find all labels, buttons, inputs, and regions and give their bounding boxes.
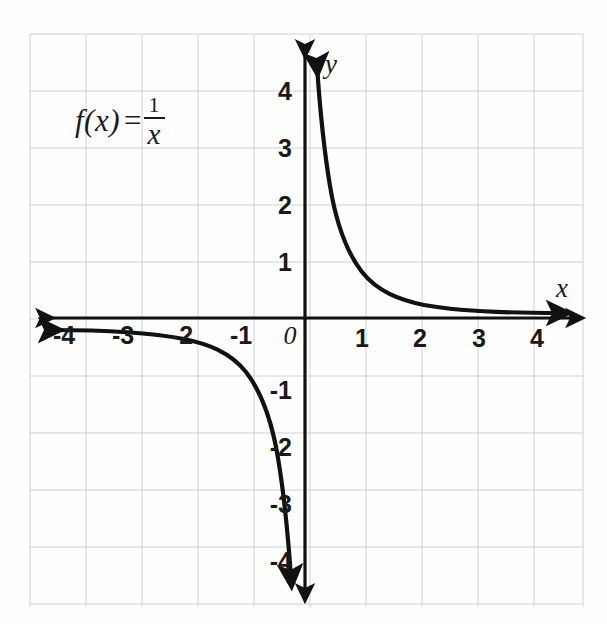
x-tick-label: 4 bbox=[530, 324, 544, 352]
plot-canvas: -4 -3 -2 -1 0 1 2 3 4 4 3 2 1 -1 -2 -3 -… bbox=[0, 0, 607, 624]
formula-denominator: x bbox=[145, 119, 164, 149]
x-tick-label: 2 bbox=[413, 324, 427, 352]
x-tick-label: -4 bbox=[53, 321, 75, 349]
formula-equals-sign: = bbox=[124, 103, 141, 138]
y-tick-label: -3 bbox=[270, 490, 292, 518]
x-tick-label: 1 bbox=[355, 324, 369, 352]
formula-numerator: 1 bbox=[146, 94, 163, 117]
y-axis-label: y bbox=[322, 49, 337, 79]
x-tick-label: -1 bbox=[230, 321, 252, 349]
y-tick-label: -1 bbox=[270, 376, 292, 404]
y-tick-label: 2 bbox=[278, 191, 292, 219]
function-formula: f(x)=1x bbox=[75, 96, 165, 151]
y-tick-label: 4 bbox=[278, 77, 292, 105]
x-tick-labels: -4 -3 -2 -1 0 1 2 3 4 bbox=[53, 321, 544, 352]
curve-branch-positive bbox=[317, 66, 560, 313]
y-tick-label: -2 bbox=[270, 433, 292, 461]
y-tick-label: 1 bbox=[278, 248, 292, 276]
x-tick-label: -2 bbox=[171, 321, 193, 349]
x-axis-label: x bbox=[555, 273, 568, 303]
graph-figure: -4 -3 -2 -1 0 1 2 3 4 4 3 2 1 -1 -2 -3 -… bbox=[0, 0, 607, 624]
y-tick-label: 3 bbox=[278, 134, 292, 162]
x-tick-label: -3 bbox=[112, 321, 134, 349]
x-tick-label: 3 bbox=[472, 324, 486, 352]
y-tick-label: -4 bbox=[270, 547, 292, 575]
origin-label: 0 bbox=[284, 321, 297, 350]
curve-branch-negative bbox=[52, 330, 291, 578]
formula-fraction: 1x bbox=[144, 94, 165, 149]
formula-function-part: f(x) bbox=[75, 103, 120, 138]
